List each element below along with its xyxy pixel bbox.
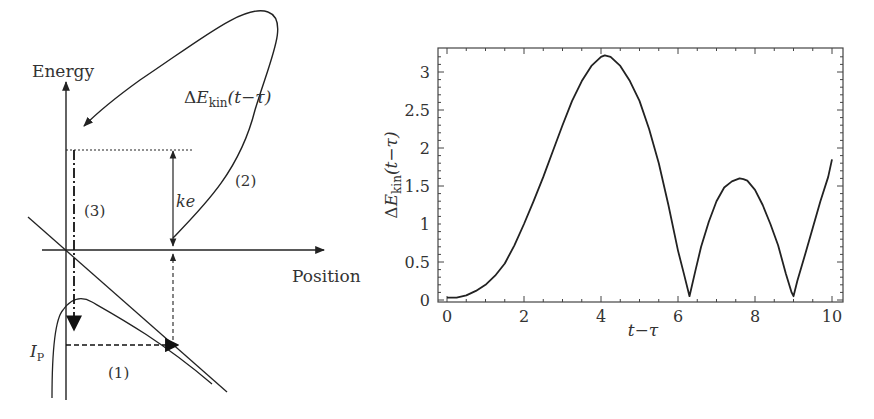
step-1-label: (1) [108,364,129,382]
tick-labels: 024681000.511.522.53 [405,63,843,326]
x-tick-label: 8 [750,307,760,326]
svg-text:ΔEkin(t−τ): ΔEkin(t−τ) [381,131,404,218]
x-tick-label: 6 [673,307,683,326]
y-tick-label: 0 [420,291,430,310]
y-tick-label: 0.5 [405,253,430,272]
delta-ekin-label: ΔEkin(t−τ) [184,87,271,110]
y-tick-label: 2 [420,139,430,158]
x-tick-label: 10 [822,307,842,326]
three-step-model-diagram: Energy Position ΔEkin(t−τ) ke (2) (3) (1… [0,0,380,419]
x-tick-label: 0 [442,307,452,326]
y-tick-label: 2.5 [405,101,430,120]
y-tick-label: 1 [420,215,430,234]
y-tick-label: 1.5 [405,177,430,196]
ip-label: IP [29,341,45,364]
ke-label: ke [176,192,195,211]
x-tick-label: 2 [519,307,529,326]
y-tick-label: 3 [420,63,430,82]
series-line [447,55,832,297]
kinetic-energy-chart: 024681000.511.522.53 t−τ ΔEkin(t−τ) [380,0,874,419]
x-axis-label: t−τ [628,320,659,340]
energy-axis-label: Energy [32,61,94,81]
x-tick-label: 4 [596,307,606,326]
step-3-label: (3) [84,202,105,220]
position-axis-label: Position [292,266,361,286]
combined-potential-curve [52,299,212,398]
plot-frame [438,48,843,302]
step-2-label: (2) [235,172,256,190]
axis-ticks [438,48,843,302]
diagram-canvas: Energy Position ΔEkin(t−τ) ke (2) (3) (1… [0,0,380,419]
chart-canvas: 024681000.511.522.53 t−τ ΔEkin(t−τ) [380,0,874,419]
y-axis-label: ΔEkin(t−τ) [381,131,404,218]
